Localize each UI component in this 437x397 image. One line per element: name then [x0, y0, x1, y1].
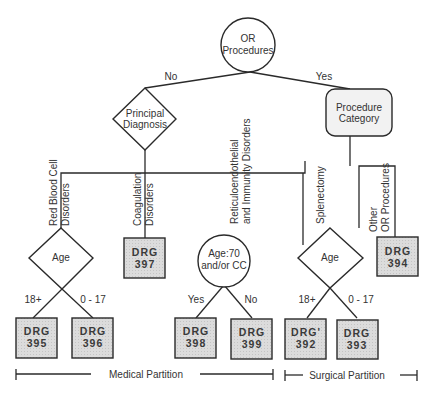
drg-395-box: DRG 395 — [16, 318, 57, 358]
drg-396-box: DRG 396 — [72, 318, 113, 358]
medical-partition-label: Medical Partition — [109, 369, 183, 380]
node-label: Age:70 — [208, 248, 240, 259]
node-label: Procedure — [336, 102, 383, 113]
drg-393-box: DRG 393 — [337, 320, 378, 359]
procedure-category-node: Procedure Category — [326, 89, 392, 136]
node-label: 396 — [83, 337, 104, 349]
edge-label-yes: Yes — [316, 71, 332, 82]
edge-label-0-17-surg: 0 - 17 — [348, 294, 374, 305]
drg-392-box: DRG' 392 — [285, 319, 326, 359]
node-label: 392 — [296, 338, 317, 350]
label-or-procedures: OR Procedures — [380, 163, 391, 232]
drg-decision-tree: OR Procedures No Yes Principal Diagnosis… — [0, 0, 437, 397]
node-label: Age — [321, 252, 339, 263]
label-coag-disorders: Disorders — [144, 183, 155, 226]
drg-394-box: DRG 394 — [377, 237, 418, 276]
node-label: 393 — [347, 339, 368, 351]
node-label: Principal — [126, 108, 164, 119]
label-splenectomy: Splenectomy — [315, 166, 326, 224]
node-label: DRG — [183, 325, 209, 337]
node-label: OR — [241, 33, 256, 44]
or-procedures-node: OR Procedures — [221, 18, 275, 72]
node-label: DRG — [80, 325, 106, 337]
label-reticuloendothelial: Reticuloendothelial — [229, 139, 240, 224]
edge-label-18plus-surg: 18+ — [299, 294, 316, 305]
node-label: 397 — [135, 258, 156, 270]
node-label: DRG — [239, 326, 265, 338]
age-node-surgical: Age — [298, 228, 363, 288]
medical-partition-bracket: Medical Partition — [16, 369, 273, 380]
drg-399-box: DRG 399 — [231, 319, 272, 359]
edge-label-0-17-med: 0 - 17 — [80, 294, 106, 305]
node-label: DRG — [24, 325, 50, 337]
principal-diagnosis-node: Principal Diagnosis — [113, 88, 176, 150]
drg-397-box: DRG 397 — [124, 238, 165, 278]
label-red-blood-cell: Red Blood Cell — [48, 159, 59, 226]
label-immunity-disorders: and Immunity Disorders — [241, 118, 252, 224]
surgical-partition-bracket: Surgical Partition — [285, 370, 417, 381]
label-rbc-disorders: Disorders — [60, 183, 71, 226]
age70-cc-node: Age:70 and/or CC — [198, 235, 250, 287]
node-label: Procedures — [222, 45, 273, 56]
node-label: DRG' — [291, 326, 321, 338]
node-label: 395 — [27, 337, 48, 349]
label-coagulation: Coagulation — [132, 173, 143, 226]
node-label: DRG — [344, 327, 370, 339]
label-other: Other — [368, 206, 379, 232]
node-label: and/or CC — [201, 260, 247, 271]
edge-label-no: No — [165, 71, 178, 82]
node-label: DRG — [385, 245, 411, 257]
node-label: 398 — [186, 337, 207, 349]
drg-398-box: DRG 398 — [175, 318, 216, 358]
edge-label-yes-age70: Yes — [188, 294, 204, 305]
node-label: Category — [339, 113, 380, 124]
surgical-partition-label: Surgical Partition — [309, 370, 385, 381]
node-label: 394 — [388, 257, 409, 269]
node-label: Age — [52, 252, 70, 263]
edge-label-no-age70: No — [245, 294, 258, 305]
node-label: Diagnosis — [123, 119, 167, 130]
age-node-medical: Age — [29, 228, 93, 289]
edge-label-18plus-med: 18+ — [25, 294, 42, 305]
node-label: 399 — [242, 338, 263, 350]
node-label: DRG — [132, 246, 158, 258]
